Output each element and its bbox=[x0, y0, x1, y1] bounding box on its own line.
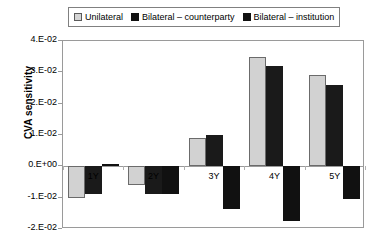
bar-4y-counterparty bbox=[266, 66, 283, 166]
legend-item-bilateral-institution: Bilateral – institution bbox=[243, 13, 335, 22]
chart-legend: Unilateral Bilateral – counterparty Bila… bbox=[68, 7, 340, 27]
legend-item-bilateral-counterparty: Bilateral – counterparty bbox=[131, 13, 235, 22]
x-tick-label-3y: 3Y bbox=[184, 172, 244, 181]
x-category-tick bbox=[305, 166, 306, 170]
y-tick-label: -2.E-02 bbox=[4, 223, 62, 232]
x-category-tick bbox=[63, 166, 64, 170]
x-category-tick bbox=[184, 166, 185, 170]
x-tick-label-4y: 4Y bbox=[244, 172, 304, 181]
y-tick-label: 1.E-02 bbox=[4, 129, 62, 138]
x-category-tick bbox=[123, 166, 124, 170]
bar-5y-counterparty bbox=[326, 85, 343, 166]
cva-sensitivity-bar-chart: Unilateral Bilateral – counterparty Bila… bbox=[0, 0, 373, 236]
y-tick-label: 4.E-02 bbox=[4, 35, 62, 44]
x-tick-label-1y: 1Y bbox=[63, 172, 123, 181]
x-tick-label-2y: 2Y bbox=[123, 172, 183, 181]
legend-label-unilateral: Unilateral bbox=[85, 13, 123, 22]
institution-swatch-icon bbox=[243, 13, 251, 21]
plot-area: 1Y2Y3Y4Y5Y bbox=[62, 40, 364, 228]
bar-3y-counterparty bbox=[206, 135, 223, 166]
y-tick-label: 3.E-02 bbox=[4, 66, 62, 75]
bar-4y-unilateral bbox=[249, 57, 266, 167]
legend-label-bilateral-counterparty: Bilateral – counterparty bbox=[142, 13, 235, 22]
counterparty-swatch-icon bbox=[131, 13, 139, 21]
x-category-tick bbox=[365, 166, 366, 170]
x-category-tick bbox=[244, 166, 245, 170]
bar-1y-unilateral bbox=[68, 166, 85, 197]
y-tick-label: -1.E-02 bbox=[4, 192, 62, 201]
bar-5y-unilateral bbox=[309, 75, 326, 166]
legend-label-bilateral-institution: Bilateral – institution bbox=[254, 13, 335, 22]
legend-item-unilateral: Unilateral bbox=[74, 13, 123, 22]
bar-5y-institution bbox=[343, 166, 360, 199]
y-tick-mark bbox=[58, 228, 62, 229]
bar-3y-unilateral bbox=[189, 138, 206, 166]
x-tick-label-5y: 5Y bbox=[305, 172, 365, 181]
bar-1y-institution bbox=[102, 164, 119, 166]
unilateral-swatch-icon bbox=[74, 13, 82, 21]
y-tick-label: 0.E+00 bbox=[4, 160, 62, 169]
zero-baseline bbox=[63, 166, 363, 167]
y-axis: 4.E-023.E-022.E-021.E-020.E+00-1.E-02-2.… bbox=[0, 0, 62, 236]
y-tick-label: 2.E-02 bbox=[4, 98, 62, 107]
